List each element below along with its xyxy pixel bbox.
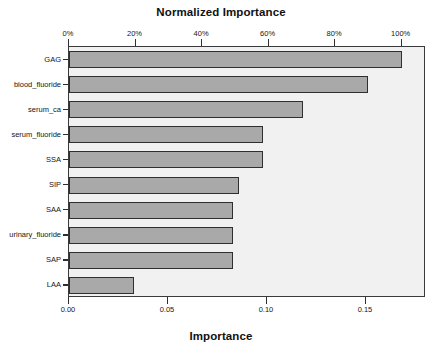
top-axis-tick — [401, 39, 402, 46]
category-label-serum-fluoride: serum_fluoride — [11, 129, 61, 138]
category-tick — [63, 259, 68, 260]
bottom-axis: 0.000.050.100.15 — [68, 297, 425, 321]
bar-serum-ca — [69, 101, 303, 118]
category-label-urinary-fluoride: urinary_fluoride — [9, 230, 61, 239]
top-axis-tick-label: 80% — [327, 29, 342, 38]
category-tick — [63, 59, 68, 60]
top-axis-tick — [135, 39, 136, 46]
bar-urinary-fluoride — [69, 227, 233, 244]
bottom-axis-tick — [68, 297, 69, 304]
category-label-gag: GAG — [44, 54, 61, 63]
bar-ssa — [69, 151, 263, 168]
category-tick — [63, 184, 68, 185]
category-label-laa: LAA — [47, 280, 61, 289]
category-tick — [63, 209, 68, 210]
category-label-saa: SAA — [46, 205, 61, 214]
bar-saa — [69, 202, 233, 219]
bar-serum-fluoride — [69, 126, 263, 143]
category-label-sap: SAP — [46, 255, 61, 264]
bar-laa — [69, 277, 134, 294]
top-axis-tick-label: 0% — [63, 29, 74, 38]
importance-bar-chart: Normalized Importance 0%20%40%60%80%100%… — [0, 0, 442, 351]
top-axis-tick — [68, 39, 69, 46]
category-tick — [63, 284, 68, 285]
bottom-axis-tick — [266, 297, 267, 304]
category-tick — [63, 134, 68, 135]
top-axis-tick — [268, 39, 269, 46]
bottom-axis-tick-label: 0.00 — [61, 305, 76, 314]
top-axis-title: Normalized Importance — [0, 6, 442, 18]
top-axis-tick-label: 20% — [127, 29, 142, 38]
category-axis: GAGblood_fluorideserum_caserum_fluorideS… — [0, 46, 68, 297]
category-tick — [63, 159, 68, 160]
bottom-axis-tick-label: 0.10 — [259, 305, 274, 314]
top-axis-tick-label: 60% — [260, 29, 275, 38]
plot-area — [68, 46, 425, 297]
category-tick — [63, 84, 68, 85]
top-axis: 0%20%40%60%80%100% — [68, 22, 425, 46]
top-axis-tick — [334, 39, 335, 46]
category-label-serum-ca: serum_ca — [28, 104, 61, 113]
category-label-sip: SIP — [49, 180, 61, 189]
bottom-axis-tick-label: 0.15 — [358, 305, 373, 314]
bar-blood-fluoride — [69, 76, 368, 93]
top-axis-tick-label: 100% — [391, 29, 410, 38]
bar-series — [69, 47, 424, 296]
bar-sip — [69, 177, 239, 194]
bottom-axis-tick — [365, 297, 366, 304]
bar-gag — [69, 51, 402, 68]
category-tick — [63, 109, 68, 110]
top-axis-tick-label: 40% — [194, 29, 209, 38]
top-axis-tick — [201, 39, 202, 46]
bottom-axis-tick-label: 0.05 — [160, 305, 175, 314]
category-label-blood-fluoride: blood_fluoride — [14, 79, 61, 88]
bar-sap — [69, 252, 233, 269]
bottom-axis-title: Importance — [0, 330, 442, 342]
category-tick — [63, 234, 68, 235]
bottom-axis-tick — [167, 297, 168, 304]
category-label-ssa: SSA — [46, 154, 61, 163]
